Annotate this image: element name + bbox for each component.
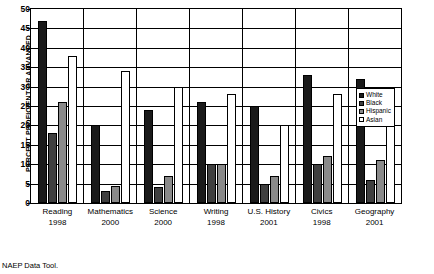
bar-asian-civics [333, 94, 342, 203]
bar-white-civics [303, 75, 312, 203]
y-axis-tickmark [27, 106, 30, 107]
x-axis-label: U.S. History2001 [242, 207, 295, 228]
x-axis-subject: Writing [204, 207, 229, 216]
y-axis-tick-label: 5 [2, 179, 30, 189]
x-axis-year: 2001 [242, 218, 295, 229]
x-axis-subject: Civics [311, 207, 332, 216]
y-axis-tickmark [27, 145, 30, 146]
x-axis-label: Civics1998 [295, 207, 348, 228]
bar-hispanic-geography [376, 160, 385, 203]
bar-group [243, 9, 296, 203]
bar-group [296, 9, 349, 203]
legend-item: Asian [359, 116, 391, 124]
y-axis-tickmark [27, 67, 30, 68]
y-axis-tick-label: 15 [2, 140, 30, 150]
bar-black-geography [366, 180, 375, 203]
bar-hispanic-ushistory [270, 176, 279, 203]
bar-white-science [144, 110, 153, 203]
legend-label: Black [366, 99, 382, 107]
y-axis-tick-label: 50 [2, 4, 30, 14]
x-axis-subject: Mathematics [88, 207, 133, 216]
y-axis-tickmark [27, 87, 30, 88]
bar-asian-reading [68, 56, 77, 203]
x-axis-label: Writing1998 [190, 207, 243, 228]
y-axis-tick-label: 20 [2, 120, 30, 130]
x-axis-label: Science2000 [137, 207, 190, 228]
y-axis-tick-label: 40 [2, 43, 30, 53]
bar-hispanic-civics [323, 156, 332, 203]
bar-asian-mathematics [121, 71, 130, 203]
bar-white-reading [38, 21, 47, 203]
chart-figure: PERCENT PROFICIENT OR ADVANCED 051015202… [0, 0, 434, 274]
bar-group [31, 9, 84, 203]
legend-label: White [366, 91, 383, 99]
bar-white-mathematics [91, 125, 100, 203]
x-axis-label: Geography2001 [348, 207, 401, 228]
x-axis-year: 1998 [190, 218, 243, 229]
bar-black-science [154, 187, 163, 203]
x-axis-subject: Reading [43, 207, 73, 216]
x-axis-label: Mathematics2000 [84, 207, 137, 228]
bar-asian-ushistory [280, 125, 289, 203]
y-axis-tick-label: 35 [2, 62, 30, 72]
y-axis-tickmark [27, 9, 30, 10]
source-note: NAEP Data Tool. [2, 261, 58, 270]
bar-white-writing [197, 102, 206, 203]
bar-asian-science [174, 87, 183, 203]
legend-swatch-icon [359, 109, 364, 114]
bar-white-ushistory [250, 106, 259, 203]
y-axis-tick-label: 0 [2, 198, 30, 208]
legend-swatch-icon [359, 117, 364, 122]
x-axis-year: 1998 [295, 218, 348, 229]
x-axis-year: 2000 [84, 218, 137, 229]
x-axis-year: 2000 [137, 218, 190, 229]
bar-hispanic-science [164, 176, 173, 203]
x-axis-year: 1998 [31, 218, 84, 229]
legend-item: Black [359, 99, 391, 107]
x-axis-labels: Reading1998Mathematics2000Science2000Wri… [31, 207, 401, 228]
legend-label: Hispanic [366, 107, 391, 115]
bar-black-mathematics [101, 191, 110, 203]
y-axis-tickmark [27, 164, 30, 165]
bar-black-writing [207, 164, 216, 203]
bar-hispanic-reading [58, 102, 67, 203]
y-axis-tick-label: 25 [2, 101, 30, 111]
bar-black-ushistory [260, 184, 269, 203]
y-axis-tickmark [27, 203, 30, 204]
x-axis-subject: Science [149, 207, 177, 216]
legend: WhiteBlackHispanicAsian [356, 88, 395, 127]
x-axis-subject: U.S. History [248, 207, 291, 216]
legend-swatch-icon [359, 101, 364, 106]
x-axis-year: 2001 [348, 218, 401, 229]
y-axis-tick-label: 10 [2, 159, 30, 169]
bar-group [137, 9, 190, 203]
y-axis-tickmark [27, 28, 30, 29]
x-axis-label: Reading1998 [31, 207, 84, 228]
bar-asian-writing [227, 94, 236, 203]
bar-group [84, 9, 137, 203]
bar-black-civics [313, 164, 322, 203]
y-axis-tickmark [27, 184, 30, 185]
legend-swatch-icon [359, 93, 364, 98]
y-axis-tickmark [27, 125, 30, 126]
legend-label: Asian [366, 116, 382, 124]
bar-hispanic-writing [217, 164, 226, 203]
y-axis-tick-label: 30 [2, 82, 30, 92]
y-axis-tickmark [27, 48, 30, 49]
legend-item: Hispanic [359, 107, 391, 115]
x-axis-subject: Geography [355, 207, 395, 216]
bar-groups [31, 9, 401, 203]
legend-item: White [359, 91, 391, 99]
bar-black-reading [48, 133, 57, 203]
bar-group [190, 9, 243, 203]
y-axis-tick-label: 45 [2, 23, 30, 33]
bar-hispanic-mathematics [111, 186, 120, 203]
